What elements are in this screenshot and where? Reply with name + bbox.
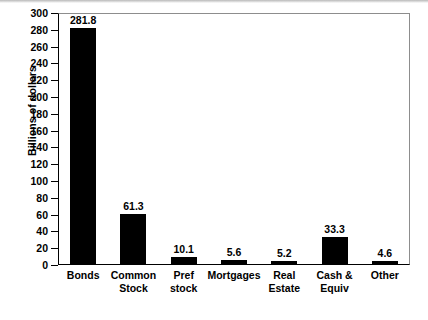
y-axis-tick — [51, 131, 58, 132]
category-label-line: Mortgages — [207, 269, 260, 282]
category-label-line: Bonds — [67, 269, 100, 282]
y-axis-tick-label: 60 — [8, 209, 48, 220]
y-axis-tick — [51, 248, 58, 249]
y-axis-tick — [51, 215, 58, 216]
y-axis-tick-label: 120 — [8, 159, 48, 170]
bar-value-label: 4.6 — [378, 248, 393, 259]
bar — [322, 237, 348, 265]
y-axis-tick — [51, 114, 58, 115]
category-label: RealEstate — [269, 269, 301, 294]
y-axis-tick-label: 80 — [8, 193, 48, 204]
y-axis-tick-label: 280 — [8, 25, 48, 36]
y-axis-tick-label: 220 — [8, 75, 48, 86]
y-axis-tick — [51, 265, 58, 266]
y-axis-tick — [51, 63, 58, 64]
bar-chart: Billions of dollars 02040608010012014016… — [0, 0, 428, 320]
plot-area — [58, 13, 410, 265]
category-label: Prefstock — [170, 269, 197, 294]
category-label-line: Pref — [170, 269, 197, 282]
y-axis-tick-label: 160 — [8, 125, 48, 136]
category-label: Mortgages — [207, 269, 260, 282]
bar-value-label: 33.3 — [324, 224, 344, 235]
y-axis-tick — [51, 181, 58, 182]
y-axis-tick-label: 40 — [8, 226, 48, 237]
category-label-line: Common — [111, 269, 157, 282]
y-axis-tick — [51, 80, 58, 81]
y-axis-tick-label: 300 — [8, 8, 48, 19]
y-axis-tick-label: 20 — [8, 243, 48, 254]
category-label: Other — [371, 269, 399, 282]
y-axis-tick — [51, 47, 58, 48]
y-axis-tick — [51, 231, 58, 232]
bar-value-label: 281.8 — [70, 15, 96, 26]
y-axis-tick — [51, 164, 58, 165]
y-axis-tick — [51, 97, 58, 98]
y-axis-tick — [51, 198, 58, 199]
y-axis-tick-label: 260 — [8, 41, 48, 52]
y-axis-tick-label: 0 — [8, 260, 48, 271]
category-label-line: Estate — [269, 282, 301, 295]
bar — [70, 28, 96, 265]
y-axis-tick — [51, 30, 58, 31]
category-label-line: Cash & — [316, 269, 352, 282]
cropped-caption-remnant — [14, 313, 314, 319]
category-label-line: stock — [170, 282, 197, 295]
bar-value-label: 61.3 — [123, 201, 143, 212]
y-axis-tick-label: 180 — [8, 109, 48, 120]
category-label-line: Stock — [111, 282, 157, 295]
category-label: Cash &Equiv — [316, 269, 352, 294]
y-axis-tick-label: 140 — [8, 142, 48, 153]
y-axis-tick-label: 240 — [8, 58, 48, 69]
bar — [221, 260, 247, 265]
scan-edge-artifact — [0, 0, 428, 3]
y-axis-tick-label: 200 — [8, 92, 48, 103]
bar — [120, 214, 146, 265]
bar-value-label: 5.6 — [227, 247, 242, 258]
bar-value-label: 5.2 — [277, 248, 292, 259]
bar — [171, 257, 197, 265]
bar — [372, 261, 398, 265]
bar — [271, 261, 297, 265]
y-axis-tick — [51, 13, 58, 14]
y-axis-tick-label: 100 — [8, 176, 48, 187]
category-label: Bonds — [67, 269, 100, 282]
category-label-line: Other — [371, 269, 399, 282]
category-label-line: Real — [269, 269, 301, 282]
y-axis-tick — [51, 147, 58, 148]
category-label-line: Equiv — [316, 282, 352, 295]
bar-value-label: 10.1 — [173, 244, 193, 255]
category-label: CommonStock — [111, 269, 157, 294]
